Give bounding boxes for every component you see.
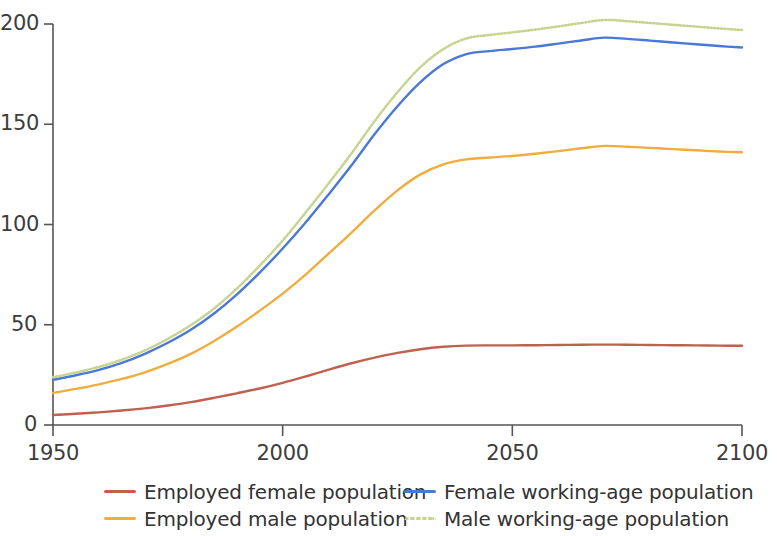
y-axis-tick-label: 150 bbox=[0, 111, 37, 135]
y-axis-tick-label: 100 bbox=[0, 212, 37, 236]
x-axis-tick-label: 1950 bbox=[8, 441, 98, 465]
legend-color-swatch bbox=[404, 486, 436, 498]
y-axis-tick-label: 50 bbox=[0, 312, 37, 336]
x-axis-tick-label: 2050 bbox=[467, 441, 557, 465]
legend-item[interactable]: Male working-age population bbox=[404, 505, 749, 532]
legend-color-swatch bbox=[104, 513, 136, 525]
y-axis-tick-label: 200 bbox=[0, 11, 37, 35]
line-chart: 050100150200 1950200020502100 Employed f… bbox=[0, 0, 777, 536]
series-line bbox=[53, 20, 742, 377]
legend-item[interactable]: Female working-age population bbox=[404, 478, 749, 505]
axis-lines bbox=[44, 24, 742, 436]
legend-label: Female working-age population bbox=[444, 480, 753, 504]
y-axis-tick-label: 0 bbox=[0, 412, 37, 436]
series-line bbox=[53, 345, 742, 415]
legend-item[interactable]: Employed female population bbox=[104, 478, 404, 505]
legend-label: Employed female population bbox=[144, 480, 426, 504]
legend-label: Male working-age population bbox=[444, 507, 729, 531]
x-axis-tick-label: 2100 bbox=[697, 441, 777, 465]
plot-area bbox=[0, 0, 777, 536]
series-line bbox=[53, 146, 742, 393]
series-line bbox=[53, 38, 742, 380]
chart-legend: Employed female populationFemale working… bbox=[104, 478, 769, 532]
legend-color-swatch bbox=[404, 513, 436, 525]
series-lines bbox=[53, 20, 742, 415]
legend-item[interactable]: Employed male population bbox=[104, 505, 404, 532]
legend-label: Employed male population bbox=[144, 507, 407, 531]
legend-color-swatch bbox=[104, 486, 136, 498]
x-axis-tick-label: 2000 bbox=[238, 441, 328, 465]
